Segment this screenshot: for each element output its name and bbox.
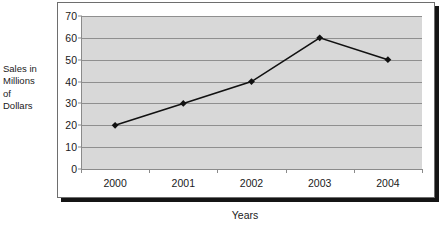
y-tick-label-0: 0 <box>71 163 77 175</box>
series-line-sales <box>81 16 422 169</box>
x-tick-label-2000: 2000 <box>103 177 126 189</box>
x-tick-mark-2 <box>217 169 218 173</box>
x-tick-label-2001: 2001 <box>172 177 195 189</box>
x-tick-label-2003: 2003 <box>308 177 331 189</box>
x-tick-mark-1 <box>149 169 150 173</box>
data-point-2000 <box>112 122 119 129</box>
x-tick-label-2004: 2004 <box>376 177 399 189</box>
x-tick-mark-5 <box>422 169 423 173</box>
y-tick-label-30: 30 <box>65 97 77 109</box>
y-tick-label-10: 10 <box>65 141 77 153</box>
x-tick-mark-3 <box>286 169 287 173</box>
x-axis-title-label: Years <box>232 209 258 221</box>
x-axis-title: Years <box>0 209 446 221</box>
y-tick-label-20: 20 <box>65 119 77 131</box>
y-tick-label-70: 70 <box>65 10 77 22</box>
data-point-2004 <box>385 56 392 63</box>
y-tick-label-50: 50 <box>65 54 77 66</box>
x-tick-mark-0 <box>81 169 82 173</box>
x-axis-line <box>81 169 422 170</box>
y-tick-label-60: 60 <box>65 32 77 44</box>
x-tick-mark-4 <box>354 169 355 173</box>
y-tick-label-40: 40 <box>65 76 77 88</box>
plot-wrapper: 010203040506070 20002001200220032004 <box>0 0 446 236</box>
data-point-2001 <box>180 100 187 107</box>
x-tick-label-2002: 2002 <box>240 177 263 189</box>
